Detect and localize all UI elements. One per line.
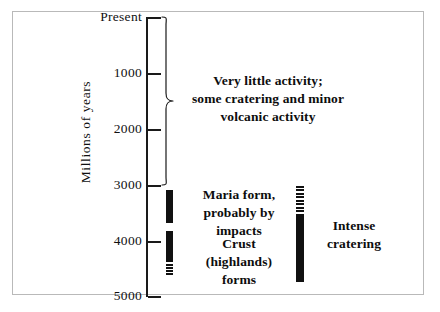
axis-tick-5000 bbox=[148, 296, 161, 298]
axis-label-4000: 4000 bbox=[72, 234, 142, 248]
axis-label-present-wrap: Present bbox=[68, 10, 142, 24]
annotation-maria-form: Maria form, probably by impacts bbox=[183, 186, 295, 239]
bar-intense-dash bbox=[296, 193, 304, 195]
bar-intense-dashed-segment bbox=[296, 186, 304, 212]
brace-quiet-period bbox=[160, 15, 176, 187]
annotation-activity-line-2: some cratering and minor bbox=[178, 90, 358, 108]
bar-intense-dash bbox=[296, 203, 304, 205]
bar-intense-dash bbox=[296, 200, 304, 202]
annotation-very-little-activity: Very little activity; some cratering and… bbox=[178, 72, 358, 125]
axis-caption-millions-of-years: Millions of years bbox=[78, 42, 94, 222]
axis-tick-4000 bbox=[148, 241, 161, 243]
annotation-intense-line-2: cratering bbox=[308, 235, 400, 253]
annotation-activity-line-1: Very little activity; bbox=[178, 72, 358, 90]
bar-intense-dash bbox=[296, 186, 304, 188]
bar-intense-cratering bbox=[296, 186, 304, 282]
annotation-crust-forms: Crust (highlands) forms bbox=[183, 235, 295, 288]
annotation-intense-cratering: Intense cratering bbox=[308, 217, 400, 253]
annotation-maria-line-2: probably by bbox=[183, 204, 295, 222]
annotation-maria-line-1: Maria form, bbox=[183, 186, 295, 204]
axis-label-present: Present bbox=[72, 10, 142, 24]
bar-intense-dash bbox=[296, 210, 304, 212]
bar-maria-solid-segment bbox=[166, 190, 173, 223]
bar-maria-form bbox=[166, 190, 173, 223]
axis-label-4000-wrap: 4000 bbox=[68, 234, 142, 248]
bar-crust-forms bbox=[166, 231, 173, 274]
bar-intense-dash bbox=[296, 196, 304, 198]
axis-label-5000-wrap: 5000 bbox=[68, 289, 142, 303]
bar-intense-dash bbox=[296, 189, 304, 191]
annotation-crust-line-1: Crust bbox=[183, 235, 295, 253]
annotation-crust-line-2: (highlands) bbox=[183, 253, 295, 271]
bar-intense-dash bbox=[296, 207, 304, 209]
bar-intense-solid-segment bbox=[296, 214, 304, 282]
axis-label-5000: 5000 bbox=[72, 289, 142, 303]
bar-crust-dash bbox=[166, 273, 173, 275]
bar-crust-dash bbox=[166, 264, 173, 266]
bar-crust-dash bbox=[166, 270, 173, 272]
figure-lunar-timeline: Present 1000 2000 3000 4000 5000 Million… bbox=[0, 0, 440, 312]
annotation-intense-line-1: Intense bbox=[308, 217, 400, 235]
annotation-crust-line-3: forms bbox=[183, 271, 295, 289]
bar-crust-dash bbox=[166, 267, 173, 269]
bar-crust-solid-segment bbox=[166, 231, 173, 262]
bar-crust-dashed-segment bbox=[166, 264, 173, 275]
annotation-activity-line-3: volcanic activity bbox=[178, 108, 358, 126]
time-axis-line bbox=[146, 17, 148, 297]
